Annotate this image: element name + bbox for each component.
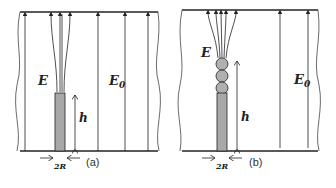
field-line-tip bbox=[216, 12, 220, 58]
field-line-tip bbox=[64, 14, 70, 92]
label-E: E bbox=[200, 45, 212, 60]
caption-b: (b) bbox=[249, 156, 262, 168]
right-break-edge bbox=[156, 12, 160, 151]
label-2R: 2R bbox=[53, 161, 67, 171]
label-2R: 2R bbox=[215, 161, 229, 171]
field-line-tip bbox=[226, 12, 236, 58]
left-break-edge bbox=[16, 12, 20, 151]
caption-a: (a) bbox=[86, 156, 99, 168]
left-break-edge bbox=[178, 10, 182, 151]
right-break-edge bbox=[316, 10, 320, 151]
label-h: h bbox=[241, 110, 250, 124]
sphere bbox=[216, 58, 228, 70]
label-E: E bbox=[37, 73, 49, 88]
cylinder-rod bbox=[217, 93, 227, 151]
field-line-tip bbox=[51, 14, 57, 92]
panel-b: E E0 h 2R (b) bbox=[178, 10, 320, 171]
field-enhancement-diagram: E E0 h 2R (a) E E0 h 2R (b) bbox=[0, 0, 336, 188]
label-h: h bbox=[79, 111, 88, 125]
sphere bbox=[216, 82, 228, 94]
label-E0: E0 bbox=[108, 73, 126, 90]
cylinder-rod bbox=[55, 93, 65, 151]
sphere bbox=[216, 70, 228, 82]
field-line-tip bbox=[221, 12, 222, 58]
panel-a: E E0 h 2R (a) bbox=[16, 12, 161, 171]
field-line-tip bbox=[224, 12, 226, 58]
